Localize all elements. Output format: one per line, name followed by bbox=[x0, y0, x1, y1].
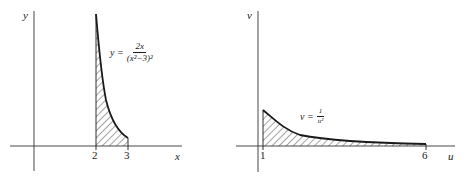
left-tick-2: 2 bbox=[92, 150, 98, 161]
right-equation-numerator: 1 bbox=[317, 108, 325, 117]
left-equation-numerator: 2x bbox=[133, 42, 146, 53]
left-tick-3: 3 bbox=[124, 150, 130, 161]
right-equation-lhs: v = bbox=[300, 111, 314, 122]
right-plot bbox=[236, 11, 455, 172]
left-equation-denominator: (x²−3)² bbox=[127, 53, 153, 63]
left-plot bbox=[10, 11, 182, 171]
figure-canvas bbox=[0, 0, 466, 177]
left-equation-fraction: 2x (x²−3)² bbox=[127, 42, 153, 63]
left-x-axis-label: x bbox=[175, 151, 180, 162]
right-u-axis-label: u bbox=[448, 151, 454, 162]
left-equation: y = 2x (x²−3)² bbox=[110, 42, 153, 63]
left-shaded-region bbox=[96, 14, 128, 146]
right-tick-1: 1 bbox=[260, 150, 266, 161]
right-v-axis-label: v bbox=[247, 10, 252, 21]
right-tick-6: 6 bbox=[422, 150, 428, 161]
right-equation: v = 1 u² bbox=[300, 108, 324, 125]
right-equation-denominator: u² bbox=[318, 117, 324, 125]
right-equation-fraction: 1 u² bbox=[317, 108, 325, 125]
left-equation-lhs: y = bbox=[110, 47, 124, 58]
left-y-axis-label: y bbox=[23, 10, 28, 21]
